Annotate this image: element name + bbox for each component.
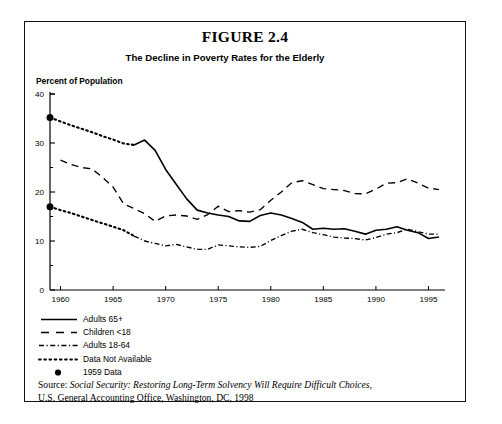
line-dashdot-icon	[37, 339, 83, 352]
line-dashed-icon	[37, 326, 83, 339]
legend-label: Adults 65+	[83, 313, 123, 326]
x-tick-label: 1990	[367, 295, 386, 304]
series-solid	[134, 140, 439, 238]
line-solid-icon	[37, 313, 83, 326]
x-tick-label: 1960	[52, 295, 71, 304]
legend-label: 1959 Data	[83, 366, 122, 379]
x-tick-label: 1995	[419, 295, 438, 304]
marker-1959-data	[47, 203, 54, 210]
legend-label: Children <18	[83, 326, 131, 339]
source-note: Source: Social Security: Restoring Long-…	[38, 379, 458, 404]
y-tick-label: 20	[35, 188, 45, 197]
source-prefix: Source:	[38, 379, 70, 390]
chart-legend: Adults 65+ Children <18 Adults 18-64 Dat…	[37, 313, 267, 379]
legend-label: Data Not Available	[83, 353, 152, 366]
line-dotted-icon	[37, 353, 83, 366]
y-tick-label: 30	[35, 139, 45, 148]
series-gap-dashdot	[50, 207, 134, 236]
legend-item: Adults 18-64	[37, 339, 267, 352]
source-title: Social Security: Restoring Long-Term Sol…	[70, 379, 370, 390]
legend-item: Data Not Available	[37, 353, 267, 366]
x-tick-label: 1985	[314, 295, 333, 304]
series-dashdot	[134, 229, 439, 249]
legend-item: Adults 65+	[37, 313, 267, 326]
x-tick-label: 1975	[209, 295, 228, 304]
filled-circle-icon	[37, 366, 83, 379]
figure-frame: FIGURE 2.4 The Decline in Poverty Rates …	[24, 21, 466, 402]
series-dashed	[61, 160, 439, 221]
x-tick-label: 1980	[262, 295, 281, 304]
legend-item: Children <18	[37, 326, 267, 339]
marker-1959-data	[47, 114, 54, 121]
figure-page: FIGURE 2.4 The Decline in Poverty Rates …	[0, 0, 502, 424]
legend-label: Adults 18-64	[83, 339, 130, 352]
x-tick-label: 1965	[104, 295, 123, 304]
y-tick-label: 40	[35, 90, 45, 99]
y-tick-label: 0	[39, 286, 44, 295]
series-gap-solid	[50, 118, 134, 145]
x-tick-label: 1970	[157, 295, 176, 304]
y-tick-label: 10	[35, 237, 45, 246]
source-line2: U.S. General Accounting Office, Washingt…	[38, 392, 254, 403]
source-comma: ,	[370, 379, 372, 390]
legend-item: 1959 Data	[37, 366, 267, 379]
